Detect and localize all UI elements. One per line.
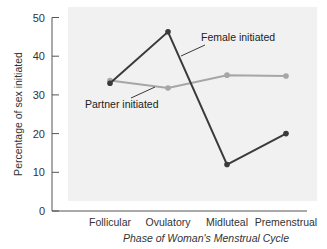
x-category-label: Premenstrual [255,216,317,228]
data-point [283,73,289,79]
y-tick-label: 0 [39,205,45,217]
y-axis: 01020304050 [33,12,59,218]
y-tick-label: 30 [33,89,45,101]
data-point [224,162,230,168]
partner-initiated-label: Partner initiated [85,98,159,110]
data-point [107,80,113,86]
x-category-label: Follicular [89,216,132,228]
y-tick-label: 20 [33,128,45,140]
x-category-label: Midluteal [206,216,248,228]
data-point [165,85,171,91]
data-point [283,131,289,137]
y-tick-label: 40 [33,50,45,62]
y-tick-label: 50 [33,12,45,24]
line-chart: 01020304050 FollicularOvulatoryMidluteal… [0,0,327,249]
y-axis-label: Percentage of sex initiated [12,52,24,176]
x-axis-label: Phase of Woman's Menstrual Cycle [123,232,289,244]
x-axis: FollicularOvulatoryMidlutealPremenstrual [52,211,317,228]
y-tick-label: 10 [33,166,45,178]
data-point [224,72,230,78]
female-initiated-label: Female initiated [201,31,275,43]
data-point [165,29,171,35]
x-category-label: Ovulatory [146,216,192,228]
